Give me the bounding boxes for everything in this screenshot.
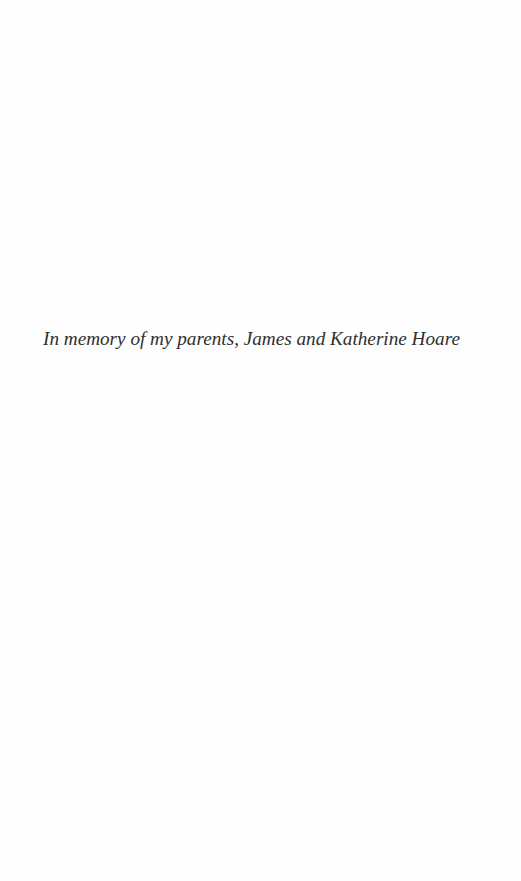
dedication-text: In memory of my parents, James and Kathe… bbox=[43, 327, 460, 351]
book-page: In memory of my parents, James and Kathe… bbox=[0, 0, 521, 881]
